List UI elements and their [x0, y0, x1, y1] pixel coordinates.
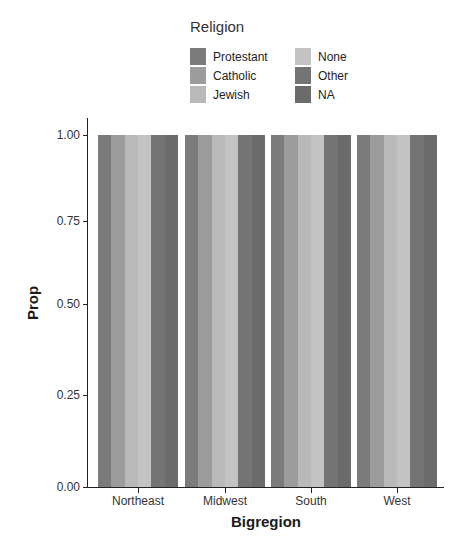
legend-swatch — [190, 86, 206, 103]
y-axis-title: Prop — [24, 286, 41, 320]
bar-south-catholic — [284, 135, 298, 487]
bar-midwest-other — [238, 135, 252, 487]
bar-south-other — [324, 135, 338, 487]
legend-label: NA — [318, 88, 335, 102]
bar-midwest-none — [225, 135, 239, 487]
bar-west-none — [397, 135, 411, 487]
bar-midwest-protestant — [185, 135, 199, 487]
legend-swatch — [190, 48, 206, 65]
bar-midwest-jewish — [212, 135, 226, 487]
x-tick-label: West — [383, 494, 410, 508]
bar-south-na — [338, 135, 352, 487]
legend-column-1: Protestant Catholic Jewish — [190, 47, 268, 104]
legend-column-2: None Other NA — [295, 47, 348, 104]
x-axis-line — [87, 487, 444, 488]
bar-northeast-other — [151, 135, 165, 487]
y-tick-label: 0.00 — [57, 480, 80, 494]
legend-item-protestant: Protestant — [190, 47, 268, 66]
y-tick — [83, 304, 88, 305]
y-tick — [83, 395, 88, 396]
bar-south-none — [311, 135, 325, 487]
bar-west-catholic — [370, 135, 384, 487]
legend-label: Protestant — [213, 50, 268, 64]
legend-swatch — [295, 48, 311, 65]
bar-south-protestant — [271, 135, 285, 487]
y-axis-line — [87, 118, 88, 488]
bar-midwest-catholic — [198, 135, 212, 487]
x-tick-label: South — [295, 494, 326, 508]
legend-item-other: Other — [295, 66, 348, 85]
x-tick-label: Midwest — [203, 494, 247, 508]
legend-label: None — [318, 50, 347, 64]
bar-northeast-catholic — [111, 135, 125, 487]
legend-item-na: NA — [295, 85, 348, 104]
y-tick-label: 0.75 — [57, 214, 80, 228]
bar-northeast-none — [138, 135, 152, 487]
bar-west-other — [410, 135, 424, 487]
legend-label: Jewish — [213, 88, 250, 102]
bar-west-na — [424, 135, 438, 487]
bar-northeast-protestant — [98, 135, 112, 487]
x-tick-label: Northeast — [112, 494, 164, 508]
bar-west-protestant — [357, 135, 371, 487]
bar-northeast-na — [165, 135, 179, 487]
legend-item-catholic: Catholic — [190, 66, 268, 85]
legend-swatch — [295, 86, 311, 103]
legend-item-jewish: Jewish — [190, 85, 268, 104]
legend-title: Religion — [190, 18, 244, 35]
bar-west-jewish — [384, 135, 398, 487]
y-tick-label: 0.50 — [57, 297, 80, 311]
bar-midwest-na — [252, 135, 266, 487]
x-tick — [225, 488, 226, 493]
legend-swatch — [190, 67, 206, 84]
x-tick — [138, 488, 139, 493]
y-tick-label: 0.25 — [57, 388, 80, 402]
legend-label: Other — [318, 69, 348, 83]
y-tick-label: 1.00 — [57, 128, 80, 142]
y-tick — [83, 487, 88, 488]
y-tick — [83, 221, 88, 222]
y-tick — [83, 135, 88, 136]
x-tick — [311, 488, 312, 493]
legend-item-none: None — [295, 47, 348, 66]
x-tick — [397, 488, 398, 493]
legend-swatch — [295, 67, 311, 84]
bar-south-jewish — [298, 135, 312, 487]
bar-northeast-jewish — [125, 135, 139, 487]
x-axis-title: Bigregion — [231, 513, 301, 530]
legend-label: Catholic — [213, 69, 256, 83]
plot-area — [90, 118, 444, 488]
